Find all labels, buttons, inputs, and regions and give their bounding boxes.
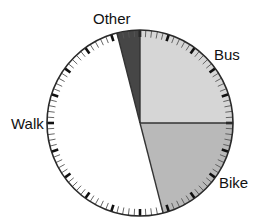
label-other: Other: [93, 11, 131, 26]
label-walk: Walk: [11, 116, 44, 131]
label-bike: Bike: [219, 175, 248, 190]
label-bus: Bus: [214, 47, 240, 62]
pie-chart: Bus Bike Walk Other: [0, 0, 254, 222]
slice-bus: [140, 30, 233, 123]
pie-chart-svg: [0, 0, 254, 222]
